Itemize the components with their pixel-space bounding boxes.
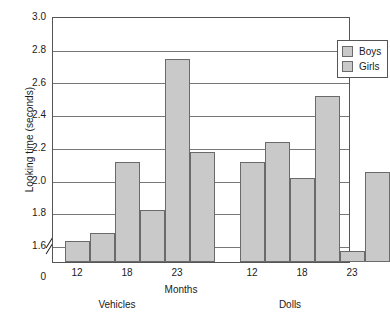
legend-swatch-girls	[342, 61, 353, 72]
legend-label-girls: Girls	[359, 62, 380, 72]
bar-vehicles-18-boys[interactable]	[115, 162, 140, 262]
bar-vehicles-12-girls[interactable]	[90, 233, 115, 262]
y-tick-label-2-6: 2.6	[20, 78, 46, 88]
bar-dolls-18-girls[interactable]	[315, 96, 340, 262]
y-axis-title: Looking time (seconds)	[24, 45, 35, 235]
x-tick-label-vehicles-12: 12	[57, 268, 97, 278]
bars-layer	[53, 18, 349, 262]
bar-dolls-23-boys[interactable]	[340, 251, 365, 262]
bar-vehicles-23-boys[interactable]	[165, 59, 190, 262]
y-tick-label-2-2: 2.2	[20, 143, 46, 153]
y-tick-label-2-0: 2.0	[20, 176, 46, 186]
x-axis-title: Months	[0, 285, 362, 295]
legend-item-girls[interactable]: Girls	[342, 59, 381, 74]
legend-item-boys[interactable]: Boys	[342, 44, 381, 59]
x-tick-label-dolls-12: 12	[232, 268, 272, 278]
legend: Boys Girls	[337, 40, 388, 78]
y-tick-label-2-8: 2.8	[20, 45, 46, 55]
plot-area: Boys Girls	[52, 17, 350, 263]
y-tick-label-0: 0	[20, 272, 46, 282]
group-label-vehicles: Vehicles	[77, 300, 157, 310]
legend-label-boys: Boys	[359, 47, 381, 57]
bar-vehicles-18-girls[interactable]	[140, 210, 165, 262]
bar-vehicles-12-boys[interactable]	[65, 241, 90, 262]
x-tick-label-vehicles-23: 23	[157, 268, 197, 278]
group-label-dolls: Dolls	[250, 300, 330, 310]
y-tick-label-3-0: 3.0	[20, 12, 46, 22]
y-tick-label-1-8: 1.8	[20, 208, 46, 218]
x-tick-label-dolls-18: 18	[282, 268, 322, 278]
y-tick-label-2-4: 2.4	[20, 110, 46, 120]
bar-dolls-12-girls[interactable]	[265, 142, 290, 262]
x-tick-label-vehicles-18: 18	[107, 268, 147, 278]
bar-dolls-23-girls[interactable]	[365, 172, 390, 262]
bar-vehicles-23-girls[interactable]	[190, 152, 215, 262]
bar-dolls-18-boys[interactable]	[290, 178, 315, 262]
bar-dolls-12-boys[interactable]	[240, 162, 265, 262]
x-tick-label-dolls-23: 23	[332, 268, 372, 278]
legend-swatch-boys	[342, 46, 353, 57]
